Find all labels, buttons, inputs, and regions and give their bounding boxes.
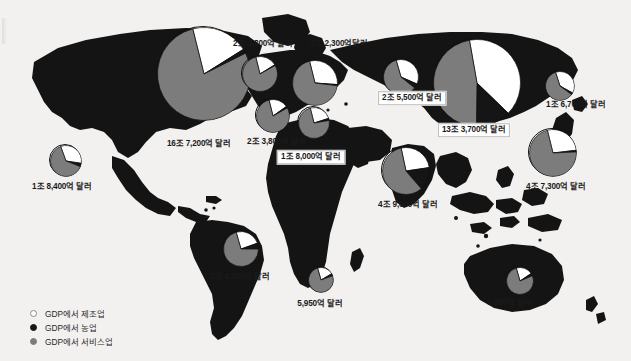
legend-label-agriculture: GDP에서 농업 [45,321,97,333]
pie-chart-uk [241,55,277,91]
pie-chart-japan [528,128,576,176]
legend-item-agriculture: GDP에서 농업 [30,320,113,334]
pie-chart-south-africa [307,266,333,292]
pie-chart-korea [544,70,574,100]
value-label-mexico: 1조 8,400억 달러 [32,182,92,191]
white-circle-icon [30,310,37,317]
pie-chart-china [432,38,520,126]
value-label-germany: 3조 2,300억달러 [310,39,368,48]
pie-chart-australia [505,266,533,294]
pie-chart-russia [382,58,418,94]
legend: GDP에서 제조업 GDP에서 농업 GDP에서 서비스업 [30,306,113,348]
value-label-korea: 1조 6,700억 달러 [546,100,606,109]
legend-label-services: GDP에서 서비스업 [45,335,113,347]
value-label-brazil: 2조 4,200억 달러 [210,272,270,281]
pie-chart-france [255,98,289,132]
pie-chart-italy [297,106,329,138]
pie-chart-india [381,146,429,194]
value-label-france: 2조 3,800억 달러 [247,137,307,146]
value-label-japan: 4조 7,300억 달러 [526,182,586,191]
value-label-south-africa: 5,950억 달러 [297,299,342,308]
value-label-russia: 2조 5,500억 달러 [378,91,446,105]
pie-chart-brazil [222,230,258,266]
value-label-italy: 1조 8,000억 달러 [277,150,345,164]
pie-chart-germany [291,59,337,105]
gray-circle-icon [30,338,37,345]
world-gdp-infographic: 16조 7,200억 달러1조 8,400억 달러2조 4,200억 달러2조 … [0,0,631,361]
value-label-australia: 9,980억 달러 [487,298,532,307]
black-circle-icon [30,324,37,331]
value-label-china: 13조 3,700억 달러 [438,123,510,137]
legend-item-services: GDP에서 서비스업 [30,334,113,348]
legend-item-manufacturing: GDP에서 제조업 [30,306,113,320]
value-label-uk: 2조 3,800억 달러 [233,39,293,48]
value-label-usa: 16조 7,200억 달러 [167,139,231,148]
pie-chart-mexico [49,144,81,176]
legend-label-manufacturing: GDP에서 제조업 [45,307,105,319]
value-label-india: 4조 9,600억 달러 [378,200,438,209]
